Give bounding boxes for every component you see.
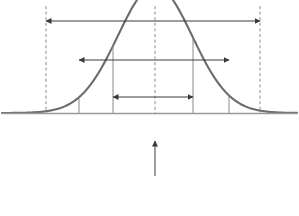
distribution-chart-svg [0, 0, 299, 216]
confidence-interval-figure [0, 0, 299, 216]
